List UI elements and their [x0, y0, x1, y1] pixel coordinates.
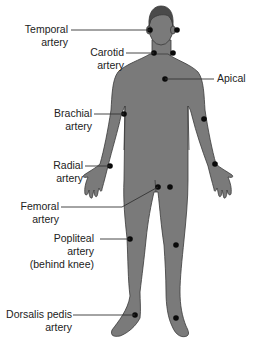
pulse-dot-brachial-right: [201, 116, 207, 122]
pulse-dot-femoral-right: [167, 184, 173, 190]
label-line: Carotid: [74, 46, 124, 59]
label-line: Apical: [217, 72, 246, 85]
label-line: Popliteal: [20, 232, 94, 245]
label-line: artery: [74, 59, 124, 72]
label-line: artery: [10, 36, 68, 49]
label-line: artery: [2, 321, 72, 334]
label-line: artery: [40, 120, 92, 133]
label-popliteal-artery: Popliteal artery (behind knee): [20, 232, 94, 271]
label-line: Femoral: [6, 200, 59, 213]
label-dorsalis-pedis-artery: Dorsalis pedis artery: [2, 308, 72, 334]
pulse-dot-temporal-right: [174, 27, 180, 33]
label-temporal-artery: Temporal artery: [10, 23, 68, 49]
pulse-dot-dorsalis-right: [173, 315, 179, 321]
label-line: artery: [34, 172, 83, 185]
label-femoral-artery: Femoral artery: [6, 200, 59, 226]
label-line: Radial: [34, 159, 83, 172]
label-carotid-artery: Carotid artery: [74, 46, 124, 72]
pulse-dot-popliteal-right: [173, 242, 179, 248]
label-radial-artery: Radial artery: [34, 159, 83, 185]
label-line: artery: [6, 213, 59, 226]
label-apical: Apical: [217, 72, 246, 85]
pulse-dot-carotid-right: [170, 50, 176, 56]
label-line: (behind knee): [20, 258, 94, 271]
pulse-dot-radial-right: [212, 161, 218, 167]
label-line: Temporal: [10, 23, 68, 36]
label-line: Brachial: [40, 107, 92, 120]
label-line: Dorsalis pedis: [2, 308, 72, 321]
label-line: artery: [20, 245, 94, 258]
pulse-sites-diagram: Temporal artery Carotid artery Apical Br…: [0, 0, 259, 352]
label-brachial-artery: Brachial artery: [40, 107, 92, 133]
